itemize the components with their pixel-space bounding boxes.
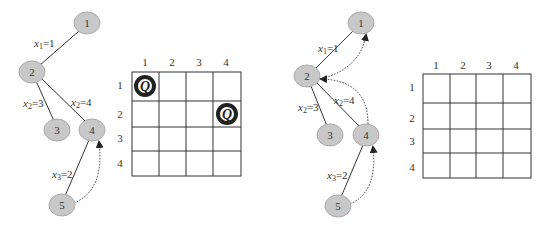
tree-node-5: 5	[49, 194, 75, 216]
svg-text:x2=4: x2=4	[70, 96, 92, 110]
svg-text:x2=3: x2=3	[297, 101, 319, 115]
svg-text:Q: Q	[140, 79, 150, 94]
svg-text:2: 2	[29, 66, 35, 78]
edge-label-x2-4: x2=4	[333, 94, 355, 108]
edge-label-x1: x1=1	[317, 42, 339, 56]
col-label: 3	[196, 56, 202, 68]
svg-text:2: 2	[304, 70, 310, 82]
queen-icon: Q	[134, 75, 156, 97]
row-label: 2	[117, 108, 123, 120]
backtrack-arrow-5-4	[350, 147, 374, 204]
svg-text:5: 5	[335, 200, 341, 212]
svg-text:3: 3	[327, 129, 333, 141]
svg-text:4: 4	[89, 124, 95, 136]
right-chessboard: 1 2 3 4 1 2 3 4	[409, 59, 531, 178]
edge-label-x1: x1=1	[33, 37, 55, 51]
svg-text:1: 1	[358, 17, 364, 29]
svg-text:5: 5	[59, 199, 65, 211]
row-label: 2	[409, 112, 415, 124]
backtrack-arrow-5-4	[74, 142, 100, 203]
svg-text:3: 3	[54, 124, 60, 136]
edge-label-x3: x3=2	[326, 169, 348, 183]
col-label: 4	[223, 56, 229, 68]
col-label: 1	[142, 56, 148, 68]
svg-text:1: 1	[84, 17, 90, 29]
left-search-tree: x1=1 x2=3 x2=4 x3=2 1 2 3 4 5	[19, 12, 105, 216]
svg-text:x1=1: x1=1	[33, 37, 55, 51]
tree-node-1: 1	[74, 12, 100, 34]
tree-node-4: 4	[79, 119, 105, 141]
tree-node-3: 3	[317, 124, 343, 146]
row-label: 1	[409, 81, 415, 93]
tree-node-1: 1	[348, 12, 374, 34]
svg-text:x2=4: x2=4	[333, 94, 355, 108]
svg-text:x3=2: x3=2	[51, 168, 73, 182]
svg-text:x2=3: x2=3	[22, 97, 44, 111]
tree-node-3: 3	[44, 119, 70, 141]
svg-text:Q: Q	[222, 107, 232, 122]
col-label: 4	[513, 59, 519, 71]
svg-text:x3=2: x3=2	[326, 169, 348, 183]
right-search-tree: x1=1 x2=3 x2=4 x3=2 1 2 3 4 5	[294, 12, 379, 217]
svg-text:x1=1: x1=1	[317, 42, 339, 56]
tree-node-4: 4	[353, 124, 379, 146]
row-label: 3	[117, 132, 123, 144]
col-label: 2	[169, 56, 175, 68]
row-label: 4	[409, 161, 415, 173]
edge-label-x3: x3=2	[51, 168, 73, 182]
tree-node-2: 2	[294, 65, 320, 87]
row-label: 4	[117, 157, 123, 169]
queen-icon: Q	[216, 103, 238, 125]
col-label: 2	[460, 59, 466, 71]
row-label: 3	[409, 135, 415, 147]
edge-label-x2-3: x2=3	[22, 97, 44, 111]
row-label: 1	[117, 79, 123, 91]
svg-text:4: 4	[363, 129, 369, 141]
tree-node-5: 5	[325, 195, 351, 217]
edge-label-x2-4: x2=4	[70, 96, 92, 110]
backtrack-arrow-2-1	[317, 35, 366, 80]
edge-label-x2-3: x2=3	[297, 101, 319, 115]
col-label: 3	[486, 59, 492, 71]
diagram-canvas: x1=1 x2=3 x2=4 x3=2 1 2 3 4 5 1 2 3 4 1 …	[0, 0, 545, 227]
left-chessboard: 1 2 3 4 1 2 3 4 Q Q	[117, 56, 241, 176]
col-label: 1	[433, 59, 439, 71]
tree-node-2: 2	[19, 61, 45, 83]
